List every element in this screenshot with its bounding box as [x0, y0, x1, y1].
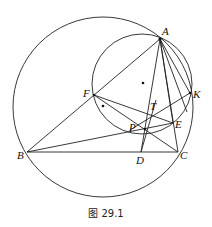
segment-FC [94, 95, 178, 152]
point-A [158, 37, 161, 40]
label-B: B [17, 150, 24, 161]
label-T: T [150, 101, 156, 112]
point-P [144, 128, 147, 131]
point-F [93, 94, 96, 97]
label-C: C [180, 150, 187, 161]
center-dot-large [102, 105, 105, 108]
label-A: A [162, 26, 169, 37]
geometry-figure: A F K T E P B D C 图 29.1 [0, 0, 212, 227]
label-K: K [193, 89, 200, 100]
label-E: E [175, 119, 182, 130]
label-F: F [83, 88, 90, 99]
segment-BE [27, 123, 173, 152]
segment-AK2 [160, 39, 187, 112]
label-P: P [129, 122, 136, 133]
segment-AD [141, 39, 160, 152]
point-K [189, 92, 192, 95]
center-dot-small [142, 82, 145, 85]
figure-caption: 图 29.1 [0, 205, 212, 220]
figure-drawing [0, 0, 212, 227]
label-D: D [136, 155, 144, 166]
